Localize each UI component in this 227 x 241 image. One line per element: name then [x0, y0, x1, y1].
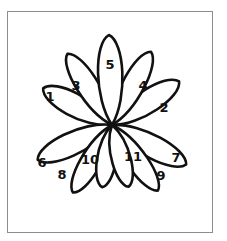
petal-label-10: 10 [81, 152, 99, 167]
petal-label-9: 9 [156, 168, 165, 183]
figure-root: 1234567891011 [0, 0, 227, 241]
petal-label-1: 1 [45, 89, 54, 104]
petal-label-5: 5 [105, 57, 114, 72]
petal-diagram: 1234567891011 [0, 0, 227, 241]
petal-label-11: 11 [124, 149, 142, 164]
petal-label-2: 2 [159, 100, 168, 115]
petal-label-6: 6 [37, 155, 46, 170]
petal-label-8: 8 [57, 167, 66, 182]
petal-label-7: 7 [171, 150, 180, 165]
petal-label-4: 4 [138, 78, 147, 93]
petal-label-3: 3 [71, 78, 80, 93]
